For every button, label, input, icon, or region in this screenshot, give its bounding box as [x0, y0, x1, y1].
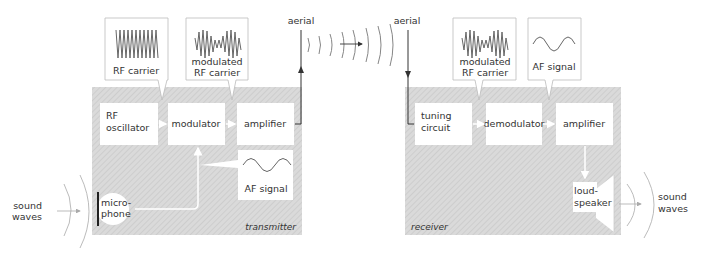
rx-amplifier-block: amplifier [556, 103, 613, 145]
svg-text:waves: waves [658, 203, 688, 214]
svg-text:demodulator: demodulator [484, 118, 545, 129]
rf-carrier-label: RF carrier [113, 65, 159, 76]
radio-transmission-diagram: transmitter RF carrier modulated RF carr… [0, 0, 707, 254]
svg-text:aerial: aerial [288, 15, 315, 26]
svg-text:AF signal: AF signal [244, 183, 287, 194]
tx-sound-waves: sound waves [12, 175, 89, 248]
svg-text:RF: RF [106, 110, 118, 121]
svg-text:phone: phone [101, 208, 131, 219]
svg-text:circuit: circuit [421, 122, 450, 133]
svg-text:oscillator: oscillator [106, 122, 149, 133]
svg-text:micro-: micro- [101, 197, 131, 208]
tx-modulated-label-1: modulated [191, 56, 242, 67]
svg-text:sound: sound [13, 200, 42, 211]
svg-text:speaker: speaker [574, 197, 612, 208]
receiver-label: receiver [411, 222, 449, 232]
svg-text:tuning: tuning [421, 110, 451, 121]
svg-text:waves: waves [12, 211, 42, 222]
svg-text:sound: sound [658, 191, 687, 202]
svg-text:RF carrier: RF carrier [462, 67, 508, 78]
tx-modulated-label-2: RF carrier [194, 67, 240, 78]
demodulator-block: demodulator [484, 103, 545, 145]
svg-text:amplifier: amplifier [244, 118, 286, 129]
svg-text:AF signal: AF signal [532, 61, 575, 72]
svg-text:aerial: aerial [394, 15, 421, 26]
modulator-block: modulator [168, 103, 225, 145]
svg-text:amplifier: amplifier [563, 118, 605, 129]
svg-text:loud-: loud- [574, 185, 598, 196]
rx-sound-waves: sound waves [619, 172, 688, 238]
svg-text:modulator: modulator [171, 118, 220, 129]
tuning-circuit-block: tuning circuit [415, 103, 472, 145]
transmitter-label: transmitter [245, 222, 297, 232]
radio-waves [308, 24, 393, 66]
svg-text:modulated: modulated [459, 56, 510, 67]
rf-oscillator-block: RF oscillator [100, 103, 158, 145]
tx-amplifier-block: amplifier [237, 103, 294, 145]
